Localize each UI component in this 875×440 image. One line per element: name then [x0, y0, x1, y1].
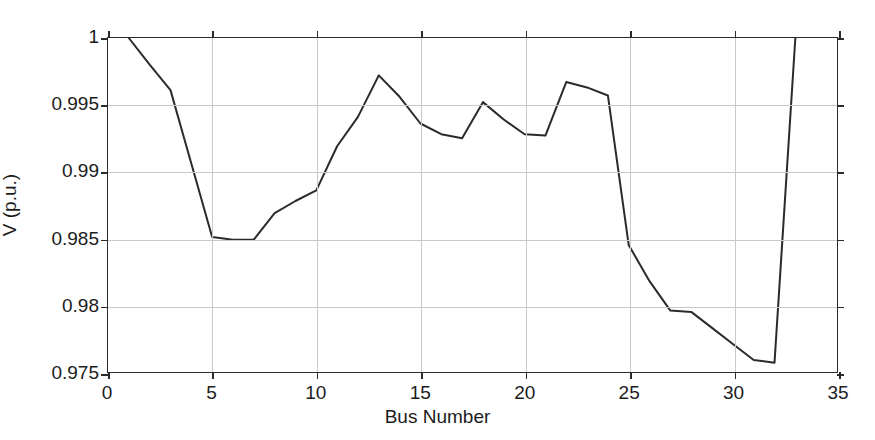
data-series-line [108, 38, 837, 372]
x-axis-tick-top [421, 31, 423, 38]
gridline-vertical [421, 38, 422, 372]
y-axis-tick [101, 240, 108, 242]
x-axis-tick [108, 372, 110, 379]
gridline-horizontal [108, 172, 837, 173]
x-axis-tick-top [317, 31, 319, 38]
x-axis-tick-top [839, 31, 841, 38]
plot-area [107, 37, 838, 373]
x-axis-tick-label: 25 [619, 382, 640, 404]
y-axis-tick [101, 374, 108, 376]
y-axis-tick [101, 172, 108, 174]
x-axis-tick [839, 372, 841, 379]
x-axis-tick [735, 372, 737, 379]
x-axis-tick [421, 372, 423, 379]
gridline-vertical [526, 38, 527, 372]
x-axis-tick-label: 20 [514, 382, 535, 404]
x-axis-title: Bus Number [0, 406, 875, 428]
gridline-vertical [630, 38, 631, 372]
y-axis-tick-label: 0.975 [51, 362, 99, 384]
x-axis-tick-top [526, 31, 528, 38]
y-axis-tick-label: 0.99 [62, 160, 99, 182]
gridline-vertical [735, 38, 736, 372]
y-axis-tick-right [837, 105, 844, 107]
x-axis-tick-label: 0 [102, 382, 113, 404]
gridline-horizontal [108, 240, 837, 241]
y-axis-tick-right [837, 240, 844, 242]
chart-figure: V (p.u.) 0.9750.980.9850.990.9951 051015… [0, 0, 875, 440]
y-axis-tick-right [837, 172, 844, 174]
y-axis-tick-right [837, 38, 844, 40]
x-axis-tick-top [212, 31, 214, 38]
y-axis-tick [101, 38, 108, 40]
x-axis-tick-label: 30 [723, 382, 744, 404]
gridline-vertical [317, 38, 318, 372]
y-axis-tick-label: 0.98 [62, 295, 99, 317]
x-axis-tick-top [108, 31, 110, 38]
x-axis-tick-top [630, 31, 632, 38]
y-axis-tick-right [837, 307, 844, 309]
gridline-vertical [212, 38, 213, 372]
x-axis-tick-label: 35 [827, 382, 848, 404]
x-axis-tick-labels: 05101520253035 [0, 382, 875, 408]
y-axis-tick-label: 1 [88, 26, 99, 48]
y-axis-tick [101, 307, 108, 309]
y-axis-tick [101, 105, 108, 107]
x-axis-tick [630, 372, 632, 379]
x-axis-tick-label: 15 [410, 382, 431, 404]
x-axis-tick [526, 372, 528, 379]
series-polyline [129, 38, 796, 363]
x-axis-tick [317, 372, 319, 379]
x-axis-tick-label: 5 [206, 382, 217, 404]
y-axis-tick-label: 0.995 [51, 93, 99, 115]
x-axis-tick-top [735, 31, 737, 38]
y-axis-tick-labels: 0.9750.980.9850.990.9951 [0, 0, 99, 440]
x-axis-tick [212, 372, 214, 379]
gridline-horizontal [108, 307, 837, 308]
x-axis-tick-label: 10 [305, 382, 326, 404]
y-axis-tick-label: 0.985 [51, 228, 99, 250]
gridline-horizontal [108, 105, 837, 106]
